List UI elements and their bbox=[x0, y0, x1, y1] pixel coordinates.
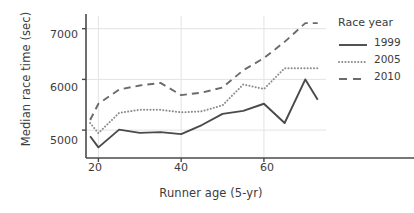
data-series bbox=[90, 23, 318, 147]
legend-swatch-dashed-icon bbox=[338, 70, 368, 82]
legend-item-1999[interactable]: 1999 bbox=[338, 34, 414, 49]
legend-label: 2010 bbox=[374, 70, 401, 82]
legend-label: 2005 bbox=[374, 53, 401, 65]
legend-swatch-dotted-icon bbox=[338, 53, 368, 65]
gridlines bbox=[86, 16, 326, 158]
legend-item-2005[interactable]: 2005 bbox=[338, 51, 414, 66]
legend-label: 1999 bbox=[374, 36, 401, 48]
legend-item-2010[interactable]: 2010 bbox=[338, 68, 414, 83]
tick-marks bbox=[82, 29, 264, 162]
legend-swatch-solid-icon bbox=[338, 36, 368, 48]
legend: Race year 199920052010 bbox=[338, 16, 414, 85]
legend-entries: 199920052010 bbox=[338, 34, 414, 83]
chart-figure: Median race time (sec) 7000 6000 5000 20… bbox=[0, 0, 414, 213]
legend-title: Race year bbox=[338, 16, 414, 29]
series-line-1999 bbox=[90, 79, 318, 147]
series-line-2010 bbox=[90, 23, 318, 120]
